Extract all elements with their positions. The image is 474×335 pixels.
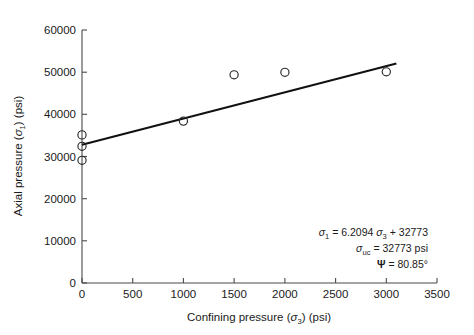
x-axis-title-pre: Confining pressure ( <box>187 311 291 323</box>
x-tick-label-2000: 2000 <box>272 288 298 300</box>
annotation-psi-angle: Ψ = 80.85° <box>377 258 428 270</box>
x-tick-label-500: 500 <box>123 288 142 300</box>
y-axis-title-pre: Axial pressure ( <box>12 136 24 216</box>
x-tick-label-1500: 1500 <box>221 288 247 300</box>
y-tick-label-20000: 20000 <box>44 193 76 205</box>
ucs-subscript: uc <box>362 248 370 257</box>
y-axis-title-post: ) (psi) <box>12 96 24 126</box>
y-tick-label-40000: 40000 <box>44 108 76 120</box>
equation-mid: = 6.2094 <box>329 226 376 238</box>
x-tick-label-1000: 1000 <box>171 288 197 300</box>
psi-symbol: Ψ <box>377 258 386 270</box>
x-tick-label-2500: 2500 <box>323 288 349 300</box>
y-tick-label-60000: 60000 <box>44 24 76 36</box>
y-tick-label-50000: 50000 <box>44 66 76 78</box>
x-tick-label-3500: 3500 <box>424 288 450 300</box>
psi-tail: = 80.85° <box>386 258 428 270</box>
ucs-tail: = 32773 psi <box>370 242 428 254</box>
x-axis-title-post: ) (psi) <box>302 311 332 323</box>
equation-tail: + 32773 <box>387 226 428 238</box>
chart-figure: 0 10000 20000 30000 40000 50000 60000 0 … <box>0 0 474 335</box>
x-tick-label-0: 0 <box>79 288 85 300</box>
x-tick-label-3000: 3000 <box>374 288 400 300</box>
y-tick-label-10000: 10000 <box>44 235 76 247</box>
y-tick-label-30000: 30000 <box>44 151 76 163</box>
y-tick-label-0: 0 <box>70 277 76 289</box>
scatter-plot-svg: 0 10000 20000 30000 40000 50000 60000 0 … <box>0 0 474 335</box>
